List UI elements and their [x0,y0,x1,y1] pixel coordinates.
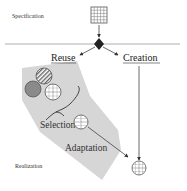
reuse-label[interactable]: Reuse [51,52,76,63]
result-component-icon [132,161,146,175]
striped-circle-icon [36,68,52,84]
grid-circle-icon [45,84,61,100]
grid-square-icon [91,7,107,23]
creation-label[interactable]: Creation [123,52,157,63]
decision-to-reuse-arrow [80,47,95,55]
decision-to-creation-arrow [103,47,118,55]
adaptation-label: Adaptation [65,143,107,153]
specification-label: Specification [12,13,44,19]
selection-label: Selection [40,120,76,130]
selected-component-icon [74,115,88,129]
realization-label: Realization [15,163,42,169]
decision-diamond-icon [94,38,104,50]
reuse-creation-diagram: Specification Reuse Creation [0,0,187,191]
solid-circle-icon [25,81,41,97]
